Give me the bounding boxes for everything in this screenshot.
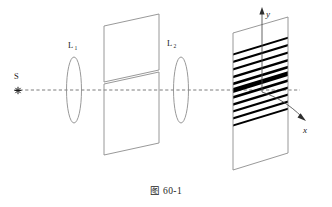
- lens-L1-shape: [67, 57, 82, 123]
- aperture-upper-plate: [104, 14, 159, 82]
- lens-L1-subscript: 1: [74, 45, 77, 51]
- optics-figure: S L 1 L 2: [0, 0, 332, 207]
- lens-L2-shape: [174, 57, 189, 123]
- optics-diagram-canvas: S L 1 L 2: [0, 0, 332, 185]
- lens-L1-group: L 1: [67, 40, 82, 123]
- lens-L2-group: L 2: [167, 38, 189, 123]
- y-axis-label: y: [265, 9, 270, 19]
- arrow-up-icon: [259, 7, 264, 15]
- aperture-lower-shape: [104, 72, 159, 155]
- lens-L1-label: L: [68, 40, 73, 50]
- x-axis-label: x: [302, 125, 307, 135]
- light-source-group: S: [14, 71, 22, 94]
- asterisk-icon: [15, 87, 22, 94]
- lens-L2-subscript: 2: [173, 43, 176, 49]
- source-label: S: [14, 71, 19, 81]
- figure-caption: 图 60-1: [0, 183, 332, 197]
- aperture-lower-plate: [104, 72, 159, 155]
- lens-L2-label: L: [167, 38, 172, 48]
- aperture-upper-shape: [104, 14, 159, 82]
